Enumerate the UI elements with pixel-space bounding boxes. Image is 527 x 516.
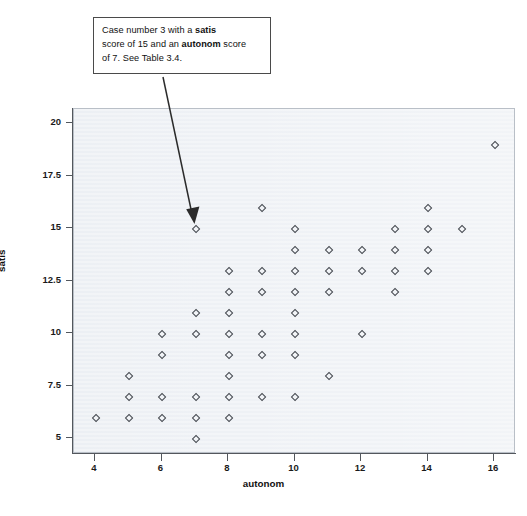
data-point [291,246,298,253]
data-point [258,330,265,337]
data-point [291,309,298,316]
data-point [391,288,398,295]
data-point [291,225,298,232]
data-point [225,393,232,400]
data-point [125,393,132,400]
y-axis-tick [66,175,73,176]
x-axis-tick-label: 16 [473,462,513,473]
data-point [158,414,165,421]
x-axis-tick [94,454,95,461]
y-axis-tick [66,437,73,438]
y-axis-title: satis [0,250,7,272]
data-point [258,267,265,274]
data-point [491,141,498,148]
annotation-line-1: Case number 3 with a satis [102,24,263,38]
data-point [424,225,431,232]
y-axis-tick-label: 10 [21,326,61,337]
data-point [424,204,431,211]
y-axis-tick-label: 20 [21,116,61,127]
plot-panel [73,108,515,453]
x-axis-tick-label: 12 [340,462,380,473]
data-point [424,246,431,253]
data-point [358,267,365,274]
data-point [225,267,232,274]
y-axis-tick-label: 15 [21,221,61,232]
data-point [258,204,265,211]
scatter-plot-figure: Case number 3 with a satis score of 15 a… [0,0,527,516]
y-axis-tick-label: 7.5 [21,379,61,390]
y-axis-tick [66,280,73,281]
data-point [457,225,464,232]
data-point [191,414,198,421]
y-axis-tick-label: 17.5 [21,169,61,180]
x-axis-tick [294,454,295,461]
x-axis-tick [360,454,361,461]
annotation-line-2: score of 15 and an autonom score [102,38,263,52]
annotation-text-3: score [221,39,246,49]
data-point [158,351,165,358]
data-point [324,246,331,253]
data-point [225,372,232,379]
data-point [424,267,431,274]
x-axis-tick-label: 8 [207,462,247,473]
x-axis-tick-label: 4 [74,462,114,473]
data-point [191,330,198,337]
data-point [225,309,232,316]
x-axis-tick [161,454,162,461]
x-axis-tick-label: 10 [274,462,314,473]
data-point [125,372,132,379]
data-point [125,414,132,421]
x-axis-tick [427,454,428,461]
annotation-text-2: score of 15 and an [102,39,182,49]
data-point [191,393,198,400]
annotation-bold-autonom: autonom [182,39,221,49]
data-point [358,330,365,337]
data-point [324,267,331,274]
data-point [391,267,398,274]
x-axis-tick [227,454,228,461]
y-axis-tick [66,227,73,228]
x-axis-title: autonom [0,478,527,489]
annotation-bold-satis: satis [195,25,216,35]
data-point [225,288,232,295]
annotation-callout: Case number 3 with a satis score of 15 a… [93,17,271,74]
data-point [225,351,232,358]
data-point [358,246,365,253]
data-point [158,330,165,337]
data-point [291,393,298,400]
y-axis-tick [66,122,73,123]
y-axis-tick-label: 5 [21,431,61,442]
data-point [291,351,298,358]
annotation-line-3: of 7. See Table 3.4. [102,52,263,66]
data-point [191,309,198,316]
y-axis-tick [66,332,73,333]
data-point [191,435,198,442]
x-axis-line [73,453,516,454]
data-point [225,330,232,337]
x-axis-tick [493,454,494,461]
annotation-text-1: Case number 3 with a [102,25,195,35]
y-axis-line [72,108,73,454]
y-axis-tick-label: 12.5 [21,274,61,285]
data-point [324,372,331,379]
data-point [258,351,265,358]
data-point [291,330,298,337]
data-point [324,288,331,295]
data-point [191,225,198,232]
data-point [158,393,165,400]
y-axis-tick [66,385,73,386]
data-point [291,288,298,295]
x-axis-tick-label: 6 [141,462,181,473]
data-point [92,414,99,421]
data-point [258,393,265,400]
data-point [291,267,298,274]
data-point [225,414,232,421]
x-axis-tick-label: 14 [407,462,447,473]
data-point [391,246,398,253]
data-point [258,288,265,295]
data-point [391,225,398,232]
